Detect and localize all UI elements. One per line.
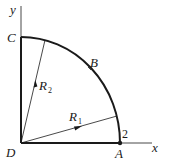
svg-text:1: 1 (78, 117, 82, 126)
point-c-label: C (7, 30, 16, 45)
point-d-label: D (5, 145, 16, 160)
vector-r1-arrow-icon (74, 126, 82, 130)
point-a-label: A (114, 146, 123, 161)
svg-text:R: R (68, 109, 77, 124)
point-a-dot (118, 141, 122, 145)
marker-2-label: 2 (122, 127, 128, 141)
arc-path-abc (21, 37, 120, 143)
y-axis-label: y (8, 2, 16, 17)
vector-r2-label: R 2 (38, 78, 52, 95)
x-axis-label: x (151, 140, 158, 155)
svg-text:2: 2 (48, 86, 52, 95)
point-b-label: B (90, 55, 98, 70)
svg-text:R: R (38, 78, 47, 93)
vector-r1-label: R 1 (68, 109, 82, 126)
quarter-circle-diagram: y x C B D A 2 R 2 R 1 (0, 0, 169, 163)
vector-r2-arrow-icon (34, 80, 38, 88)
